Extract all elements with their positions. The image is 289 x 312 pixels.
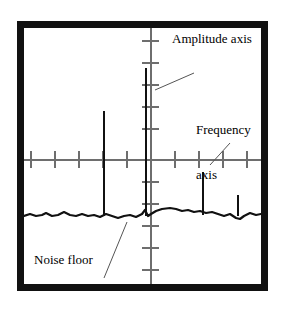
noise-floor-label: Noise floor xyxy=(34,252,93,267)
frequency-axis-label-line2: axis xyxy=(196,167,251,182)
amplitude-axis-label: Amplitude axis xyxy=(172,31,252,46)
noise-leader xyxy=(104,222,127,278)
figure-canvas: Amplitude axis Frequency axis Noise floo… xyxy=(0,0,289,312)
frequency-axis-label: Frequency axis xyxy=(196,92,251,212)
frequency-axis-label-line1: Frequency xyxy=(196,122,251,137)
amplitude-leader xyxy=(155,73,194,90)
